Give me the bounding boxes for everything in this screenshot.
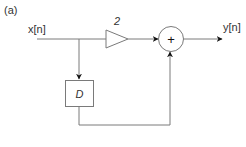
panel-label: (a)	[4, 4, 17, 16]
block-diagram: (a) x[n] 2 + y[n] D	[0, 0, 246, 147]
output-label: y[n]	[223, 21, 241, 33]
input-label: x[n]	[28, 23, 46, 35]
delay-label: D	[76, 88, 84, 100]
gain-label: 2	[113, 15, 120, 27]
adder-symbol: +	[167, 32, 175, 47]
gain-amplifier-icon	[106, 30, 128, 48]
